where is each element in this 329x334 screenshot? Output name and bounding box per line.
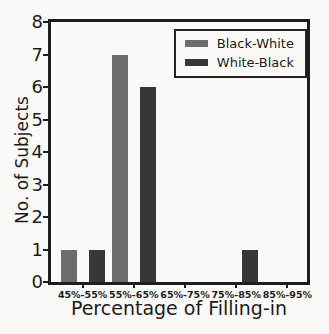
x-axis-label: Percentage of Filling-in xyxy=(48,297,310,319)
x-tick-mark xyxy=(235,285,237,288)
y-tick-mark xyxy=(43,281,48,283)
y-tick-mark xyxy=(43,151,48,153)
x-tick-mark xyxy=(286,285,288,288)
bar-white-black xyxy=(242,250,258,283)
bar-black-white xyxy=(61,250,77,283)
legend-label: Black-White xyxy=(217,37,294,50)
bar-white-black xyxy=(140,87,156,282)
y-tick-mark xyxy=(43,216,48,218)
y-tick-label: 4 xyxy=(2,143,43,161)
y-tick-mark xyxy=(43,54,48,56)
y-tick-mark xyxy=(43,184,48,186)
figure: No. of Subjects Black-WhiteWhite-Black 0… xyxy=(0,0,329,334)
y-tick-label: 1 xyxy=(2,241,43,259)
legend-item: Black-White xyxy=(185,37,294,50)
y-tick-label: 8 xyxy=(2,13,43,31)
legend-item: White-Black xyxy=(185,56,294,69)
y-tick-label: 7 xyxy=(2,46,43,64)
bar-white-black xyxy=(89,250,105,283)
x-tick-mark xyxy=(184,285,186,288)
x-tick-mark xyxy=(133,285,135,288)
y-tick-label: 6 xyxy=(2,78,43,96)
legend-swatch-white-black xyxy=(185,59,208,66)
y-tick-label: 2 xyxy=(2,208,43,226)
y-tick-label: 5 xyxy=(2,111,43,129)
y-tick-label: 0 xyxy=(2,273,43,291)
bar-black-white xyxy=(112,55,128,283)
plot-area: Black-WhiteWhite-Black xyxy=(48,19,310,285)
y-tick-mark xyxy=(43,249,48,251)
y-tick-mark xyxy=(43,119,48,121)
y-tick-mark xyxy=(43,86,48,88)
legend-label: White-Black xyxy=(217,56,294,69)
legend-swatch-black-white xyxy=(185,40,208,47)
x-tick-mark xyxy=(82,285,84,288)
y-tick-label: 3 xyxy=(2,176,43,194)
y-tick-mark xyxy=(43,21,48,23)
legend: Black-WhiteWhite-Black xyxy=(174,29,307,78)
